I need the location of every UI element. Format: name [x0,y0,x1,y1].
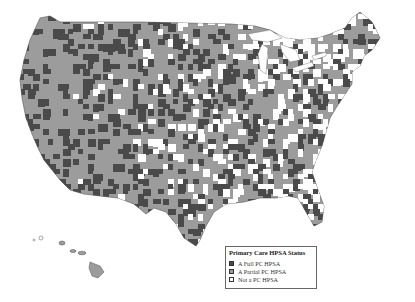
county-patch [53,224,60,229]
county-patch [53,199,60,207]
county-patch [208,244,213,252]
county-patch [98,19,104,24]
county-patch [303,24,311,30]
county-patch [248,89,256,94]
county-patch [23,129,30,135]
county-patch [33,114,41,119]
county-patch [318,149,326,155]
county-patch [138,229,144,236]
county-patch [43,129,49,135]
county-patch [378,119,385,127]
legend-title: Primary Care HPSA Status [229,249,313,256]
county-patch [368,99,375,104]
county-patch [383,144,391,152]
county-patch [238,239,244,245]
county-patch [173,99,178,104]
county-patch [98,199,105,205]
county-patch [283,14,289,22]
county-patch [88,204,96,212]
county-patch [318,29,323,37]
county-patch [53,194,60,199]
county-patch [23,149,31,154]
contiguous-us [18,12,391,257]
county-patch [128,209,135,215]
county-patch [118,219,123,224]
county-patch [73,219,81,225]
county-patch [133,174,138,181]
county-patch [168,144,176,152]
county-patch [113,234,118,239]
county-patch [363,174,370,181]
county-patch [363,129,369,137]
county-patch [228,44,234,49]
county-patch [343,214,350,221]
county-patch [188,249,193,255]
county-patch [358,99,366,104]
county-patch [378,174,386,182]
county-patch [88,234,96,242]
county-patch [328,149,334,154]
county-patch [203,169,210,177]
county-patch [253,169,259,174]
legend-label-none: Not a PC HPSA [238,276,278,283]
county-patch [288,229,294,237]
county-patch [268,219,274,225]
county-patch [278,234,283,241]
county-patch [273,229,279,236]
county-patch [23,184,31,189]
county-patch [98,144,103,150]
county-patch [343,129,351,135]
county-patch [338,149,344,157]
county-patch [188,64,193,70]
county-patch [33,74,40,81]
county-patch [293,169,298,174]
county-patch [178,154,184,162]
county-patch [238,184,243,189]
county-patch [233,219,239,224]
county-patch [63,109,68,116]
county-patch [68,219,74,226]
county-patch [163,199,169,205]
county-patch [178,219,184,227]
county-patch [118,194,125,201]
county-patch [18,194,26,199]
county-patch [338,99,346,107]
county-patch [78,14,86,22]
county-patch [363,154,370,161]
county-patch [338,209,343,215]
county-patch [128,49,133,57]
county-patch [133,204,139,209]
county-patch [308,19,316,25]
county-patch [118,29,123,37]
county-patch [358,84,364,92]
county-patch [118,214,125,222]
county-patch [53,179,59,185]
county-patch [303,74,308,79]
county-patch [363,214,369,220]
county-patch [373,79,380,87]
county-patch [263,224,268,229]
county-patch [238,214,246,219]
county-patch [218,154,223,159]
county-patch [378,124,383,129]
county-patch [103,199,110,206]
county-patch [273,164,280,171]
county-patch [378,154,384,161]
county-patch [328,94,335,99]
county-patch [48,249,54,255]
county-patch [273,109,281,114]
county-patch [293,199,298,205]
county-patch [363,69,369,77]
county-patch [188,44,193,49]
county-patch [108,74,113,79]
county-patch [363,219,370,224]
county-patch [368,24,373,31]
county-patch [378,224,383,231]
county-patch [248,209,254,215]
county-patch [318,89,323,95]
county-patch [383,214,388,221]
county-patch [358,159,366,164]
county-patch [343,179,350,185]
county-patch [108,189,116,194]
county-patch [188,239,193,245]
